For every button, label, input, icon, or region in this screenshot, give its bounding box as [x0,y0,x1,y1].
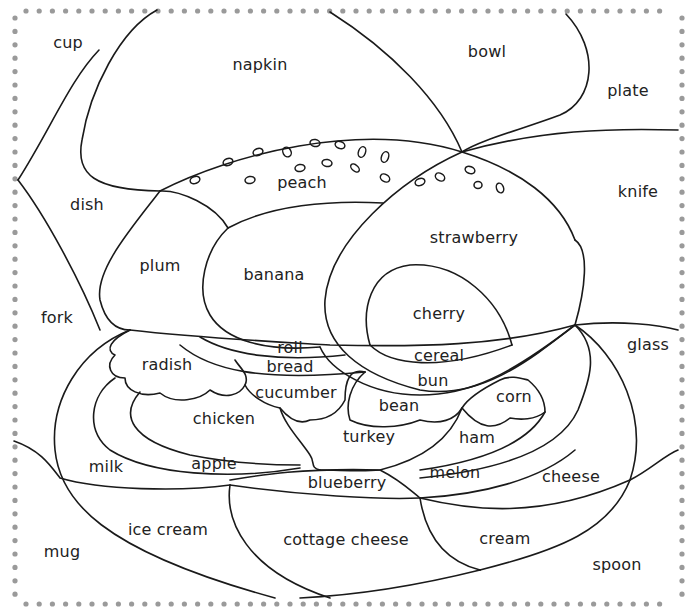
region-label-cream: cream [479,531,530,547]
region-label-fork: fork [41,310,73,326]
region-label-cherry: cherry [413,306,465,322]
region-label-turkey: turkey [343,429,395,445]
region-label-bun: bun [417,373,448,389]
region-label-cottage-cheese: cottage cheese [283,532,409,548]
region-label-roll: roll [277,340,303,356]
region-label-bread: bread [266,359,313,375]
region-lines [14,10,678,598]
region-label-blueberry: blueberry [308,475,387,491]
region-label-cheese: cheese [542,469,600,485]
region-label-cup: cup [53,35,83,51]
region-label-apple: apple [191,456,236,472]
region-label-banana: banana [243,267,304,283]
region-outlines [0,0,687,615]
region-label-knife: knife [618,184,658,200]
region-label-ice-cream: ice cream [128,522,208,538]
region-label-chicken: chicken [193,411,255,427]
region-label-ham: ham [459,430,495,446]
region-label-corn: corn [496,389,532,405]
region-label-plum: plum [139,258,180,274]
region-label-glass: glass [627,337,669,353]
region-label-milk: milk [89,459,124,475]
region-label-peach: peach [277,175,327,191]
region-label-spoon: spoon [592,557,641,573]
region-label-bowl: bowl [468,44,506,60]
region-label-melon: melon [430,465,481,481]
region-label-bean: bean [379,398,420,414]
region-label-plate: plate [607,83,649,99]
region-label-cucumber: cucumber [255,385,337,401]
region-label-mug: mug [44,544,80,560]
region-label-strawberry: strawberry [430,230,518,246]
sesame-seeds [189,139,505,194]
region-label-radish: radish [142,357,193,373]
region-label-napkin: napkin [232,57,287,73]
region-label-dish: dish [70,197,104,213]
region-label-cereal: cereal [414,348,464,364]
coloring-worksheet: cup napkin bowl plate dish peach knife s… [0,0,687,615]
